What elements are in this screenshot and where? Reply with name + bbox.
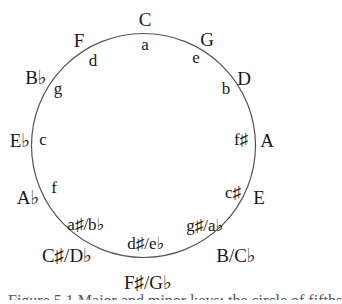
major-key-label: E♭: [10, 131, 31, 150]
minor-key-label: c♯: [225, 184, 241, 201]
major-key-label: A♭: [17, 188, 40, 207]
minor-key-label: d: [89, 52, 98, 69]
minor-key-label: f: [51, 179, 57, 196]
major-key-label: F♯/G♭: [124, 273, 172, 292]
minor-key-label: c: [39, 131, 47, 148]
minor-key-label: g: [54, 80, 63, 97]
major-key-label: C♯/D♭: [42, 246, 92, 265]
major-key-label: C: [139, 10, 152, 29]
minor-key-label: a♯/b♭: [67, 216, 104, 233]
minor-key-label: g♯/a♭: [186, 217, 223, 234]
minor-key-label: e: [192, 49, 200, 66]
major-key-label: B♭: [25, 68, 47, 87]
major-key-label: E: [253, 188, 265, 207]
major-key-label: B/C♭: [216, 246, 256, 265]
major-key-label: G: [200, 30, 214, 49]
major-key-label: D: [237, 69, 251, 88]
figure-caption: Figure 5.1 Major and minor keys: the cir…: [8, 292, 342, 304]
major-key-label: A: [260, 131, 274, 150]
minor-key-label: f♯: [234, 131, 248, 148]
major-key-label: F: [74, 31, 85, 50]
minor-key-label: a: [141, 36, 149, 53]
minor-key-label: d♯/e♭: [127, 235, 164, 252]
minor-key-label: b: [222, 80, 231, 97]
